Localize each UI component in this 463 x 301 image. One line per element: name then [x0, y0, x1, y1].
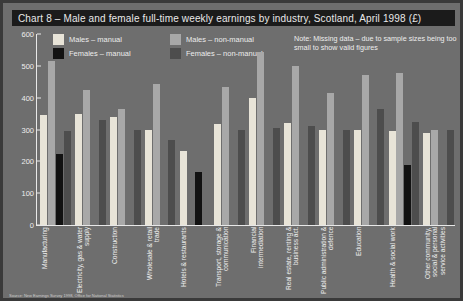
bar	[75, 114, 82, 225]
bar-group	[176, 34, 211, 225]
chart-title-bar: Chart 8 – Male and female full-time week…	[12, 10, 455, 26]
y-axis-labels: 0100200300400500600	[8, 34, 34, 226]
chart-footer: Source: New Earnings Survey 1998, Office…	[9, 293, 259, 298]
chart-figure: Chart 8 – Male and female full-time week…	[0, 0, 463, 301]
bar	[273, 128, 280, 225]
bar-group	[316, 34, 351, 225]
bar	[431, 130, 438, 226]
bar	[180, 151, 187, 225]
x-axis-category-label: Health & social work	[389, 227, 420, 295]
y-axis-tick-label: 600	[10, 30, 34, 39]
bar	[110, 117, 117, 225]
bar-group	[385, 34, 420, 225]
x-axis-category-label: Wholesale & retail trade	[146, 227, 177, 295]
y-axis-tick-label: 100	[10, 189, 34, 198]
bar-group	[351, 34, 386, 225]
bar	[48, 61, 55, 225]
y-axis-tick-label: 200	[10, 157, 34, 166]
bar	[238, 130, 245, 225]
bar-group	[420, 34, 455, 225]
bar	[153, 84, 160, 225]
bar	[396, 73, 403, 225]
bar	[99, 120, 106, 225]
bar	[423, 133, 430, 225]
bar	[404, 165, 411, 225]
bar	[292, 66, 299, 225]
x-axis-category-label: Transport, storage & communication	[215, 227, 246, 295]
bar	[195, 172, 202, 225]
bar	[214, 124, 221, 225]
bar-group	[211, 34, 246, 225]
x-axis-category-label: Manufacturing	[41, 227, 72, 295]
x-axis-category-label: Other community, social & personal servi…	[424, 227, 455, 295]
y-axis-tick-label: 300	[10, 125, 34, 134]
bar	[284, 123, 291, 226]
bar	[377, 109, 384, 225]
x-axis-category-label: Electricity, gas & water supply	[76, 227, 107, 295]
bar-group	[142, 34, 177, 225]
bar	[308, 126, 315, 225]
bar	[389, 131, 396, 225]
x-axis-line	[36, 225, 455, 226]
y-axis-tick-label: 0	[10, 221, 34, 230]
bar	[64, 131, 71, 225]
bar-group	[72, 34, 107, 225]
chart-title: Chart 8 – Male and female full-time week…	[12, 13, 421, 24]
x-axis-category-labels: ManufacturingElectricity, gas & water su…	[37, 227, 455, 297]
bar	[134, 130, 141, 226]
plot-area	[37, 34, 455, 225]
y-axis-tick-label: 500	[10, 61, 34, 70]
bar	[354, 130, 361, 226]
bar-group	[107, 34, 142, 225]
x-axis-category-label: Construction	[111, 227, 142, 295]
bar	[222, 87, 229, 225]
y-axis-tick-label: 400	[10, 93, 34, 102]
bar	[343, 130, 350, 226]
bar	[118, 109, 125, 225]
x-axis-category-label: Financial intermediation	[250, 227, 281, 295]
bar	[447, 130, 454, 225]
bar	[362, 75, 369, 225]
bar	[145, 130, 152, 225]
bar	[257, 52, 264, 225]
bar	[412, 122, 419, 225]
bar	[168, 140, 175, 225]
bar-group	[281, 34, 316, 225]
bar-group	[246, 34, 281, 225]
bar	[327, 93, 334, 225]
bar	[249, 98, 256, 225]
x-axis-category-label: Education	[355, 227, 386, 295]
bar	[83, 90, 90, 225]
x-axis-category-label: Real estate, renting & business act.	[285, 227, 316, 295]
bar	[56, 154, 63, 225]
bar	[319, 130, 326, 225]
x-axis-category-label: Hotels & restaurants	[180, 227, 211, 295]
bar	[40, 115, 47, 225]
x-axis-category-label: Public administration & defence	[320, 227, 351, 295]
bar-group	[37, 34, 72, 225]
